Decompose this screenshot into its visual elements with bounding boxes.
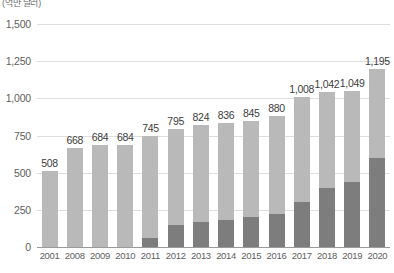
x-axis-tick-2018: 2018 — [317, 250, 337, 261]
bar-column: 880 — [269, 24, 285, 247]
bar-column: 1,042 — [319, 24, 335, 247]
bar-sub — [319, 188, 335, 247]
bar-sub — [142, 238, 158, 247]
y-axis-tick-750: 750 — [14, 130, 31, 142]
bar-column: 1,049 — [344, 24, 360, 247]
bar-total — [67, 148, 83, 247]
x-axis: 2001200820092010201120122013201420152016… — [37, 250, 390, 270]
bar-value-label: 880 — [268, 102, 285, 114]
bar-column: 1,195 — [369, 24, 385, 247]
bar-column: 836 — [218, 24, 234, 247]
bar-column: 684 — [92, 24, 108, 247]
bar-value-label: 508 — [41, 157, 58, 169]
bar-value-label: 845 — [243, 107, 260, 119]
x-axis-tick-2012: 2012 — [166, 250, 186, 261]
bar-total — [42, 171, 58, 247]
bar-value-label: 668 — [67, 134, 84, 146]
y-axis-tick-1250: 1,250 — [6, 55, 31, 67]
x-axis-tick-2010: 2010 — [115, 250, 135, 261]
bar-value-label: 1,049 — [340, 77, 365, 89]
bar-value-label: 684 — [117, 131, 134, 143]
bar-sub — [294, 202, 310, 247]
x-axis-tick-2015: 2015 — [241, 250, 261, 261]
bar-value-label: 795 — [167, 115, 184, 127]
y-axis-tick-500: 500 — [14, 167, 31, 179]
bar-sub — [218, 220, 234, 248]
bar-chart: (억만 달러) 02505007501,0001,2501,500 508668… — [0, 0, 394, 273]
y-axis-tick-1000: 1,000 — [6, 92, 31, 104]
bar-column: 508 — [42, 24, 58, 247]
bar-column: 745 — [142, 24, 158, 247]
bar-total — [92, 145, 108, 247]
bar-total — [142, 136, 158, 247]
x-axis-tick-2014: 2014 — [216, 250, 236, 261]
bar-value-label: 1,008 — [289, 83, 314, 95]
x-axis-tick-2001: 2001 — [40, 250, 60, 261]
bar-value-label: 745 — [142, 122, 159, 134]
y-axis-tick-1500: 1,500 — [6, 18, 31, 30]
x-axis-tick-2017: 2017 — [292, 250, 312, 261]
y-axis-tick-250: 250 — [14, 204, 31, 216]
bar-sub — [344, 182, 360, 247]
bar-column: 668 — [67, 24, 83, 247]
bar-sub — [168, 225, 184, 247]
y-axis-tick-0: 0 — [25, 241, 31, 253]
bar-column: 684 — [117, 24, 133, 247]
bar-value-label: 684 — [92, 131, 109, 143]
x-axis-tick-2008: 2008 — [65, 250, 85, 261]
x-axis-tick-2016: 2016 — [267, 250, 287, 261]
bar-value-label: 1,042 — [315, 78, 340, 90]
x-axis-tick-2011: 2011 — [141, 250, 160, 261]
bar-column: 795 — [168, 24, 184, 247]
bar-total — [117, 145, 133, 247]
bar-value-label: 1,195 — [365, 55, 390, 67]
x-axis-tick-2013: 2013 — [191, 250, 211, 261]
bar-value-label: 824 — [193, 111, 210, 123]
bar-group: 5086686846847457958248368458801,0081,042… — [37, 24, 390, 247]
bar-column: 845 — [243, 24, 259, 247]
plot-area: 02505007501,0001,2501,500 50866868468474… — [37, 24, 390, 247]
bar-sub — [193, 222, 209, 247]
x-axis-tick-2009: 2009 — [90, 250, 110, 261]
x-axis-tick-2020: 2020 — [367, 250, 387, 261]
bar-sub — [369, 158, 385, 247]
bar-sub — [269, 214, 285, 247]
x-axis-tick-2019: 2019 — [342, 250, 362, 261]
bar-sub — [243, 217, 259, 247]
y-axis-unit-label: (억만 달러) — [2, 0, 41, 9]
bar-column: 1,008 — [294, 24, 310, 247]
bar-value-label: 836 — [218, 109, 235, 121]
gridline-0: 0 — [37, 247, 390, 248]
bar-column: 824 — [193, 24, 209, 247]
